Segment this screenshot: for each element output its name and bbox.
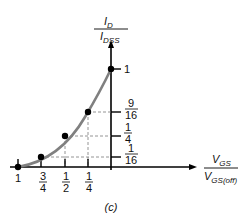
svg-text:1: 1: [128, 142, 134, 154]
svg-text:4: 4: [86, 182, 92, 194]
svg-text:VGS: VGS: [212, 153, 232, 168]
svg-text:9: 9: [128, 97, 134, 109]
svg-text:VGS(off): VGS(off): [204, 170, 237, 185]
svg-text:4: 4: [40, 182, 46, 194]
x-tick-labels: 1 3 4 1 2 1 4: [15, 170, 93, 194]
svg-text:1: 1: [86, 170, 92, 182]
data-points: [15, 66, 114, 170]
svg-text:2: 2: [63, 182, 69, 194]
svg-text:1: 1: [125, 121, 131, 133]
svg-text:1: 1: [124, 63, 130, 75]
svg-text:3: 3: [40, 170, 46, 182]
y-tick-labels: 1 9 16 1 4 1 16: [124, 63, 138, 166]
transfer-curve-diagram: ID IDSS VGS VGS(off) 1 9 16 1 4 1 16 1 3…: [0, 0, 243, 219]
svg-text:16: 16: [125, 154, 137, 166]
x-axis-label: VGS VGS(off): [204, 153, 238, 185]
figure-caption: (c): [105, 201, 118, 213]
y-ticks: [111, 69, 121, 157]
x-axis-arrow-icon: [189, 164, 197, 170]
svg-text:1: 1: [15, 172, 21, 184]
transfer-curve: [18, 69, 111, 167]
svg-text:1: 1: [63, 170, 69, 182]
svg-text:16: 16: [125, 109, 137, 121]
guide-lines: [41, 112, 111, 167]
svg-text:ID: ID: [104, 15, 113, 30]
svg-text:IDSS: IDSS: [100, 30, 120, 45]
y-axis-label: ID IDSS: [94, 15, 128, 45]
